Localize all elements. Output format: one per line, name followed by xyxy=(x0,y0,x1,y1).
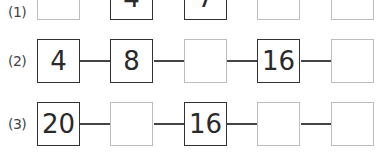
answer-box[interactable] xyxy=(331,0,374,20)
problem-label: (3) xyxy=(8,116,26,132)
connector-line xyxy=(80,123,110,125)
connector-line xyxy=(154,123,184,125)
problem-row-1: (1) 4 7 xyxy=(0,0,390,20)
problem-label: (1) xyxy=(8,4,26,20)
answer-box[interactable] xyxy=(184,39,227,83)
answer-box[interactable] xyxy=(37,0,80,20)
given-number-box: 4 xyxy=(37,39,80,83)
given-number-box: 8 xyxy=(110,39,153,83)
given-number-box: 4 xyxy=(110,0,153,20)
connector-line xyxy=(227,123,257,125)
connector-line xyxy=(80,60,110,62)
connector-line xyxy=(301,123,331,125)
given-number-box: 16 xyxy=(257,39,300,83)
connector-line xyxy=(227,60,257,62)
problem-row-3: (3) 20 16 xyxy=(0,102,390,146)
problem-row-2: (2) 4 8 16 xyxy=(0,39,390,83)
problem-label: (2) xyxy=(8,53,26,69)
answer-box[interactable] xyxy=(110,102,153,146)
given-number-box: 20 xyxy=(37,102,80,146)
given-number-box: 16 xyxy=(184,102,227,146)
connector-line xyxy=(301,60,331,62)
answer-box[interactable] xyxy=(331,39,374,83)
answer-box[interactable] xyxy=(331,102,374,146)
answer-box[interactable] xyxy=(257,102,300,146)
connector-line xyxy=(154,60,184,62)
answer-box[interactable] xyxy=(257,0,300,20)
given-number-box: 7 xyxy=(184,0,227,20)
